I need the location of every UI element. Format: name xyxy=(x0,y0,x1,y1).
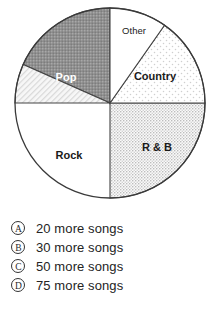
answer-option-a[interactable]: A 20 more songs xyxy=(9,219,221,238)
option-letter-circle-c: C xyxy=(9,259,30,274)
option-letter-circle-b: B xyxy=(9,240,30,255)
option-letter-a: A xyxy=(15,224,22,234)
pie-chart-figure: Other Country R & B Rock Pop xyxy=(0,0,221,205)
pie-chart-svg: Other Country R & B Rock Pop xyxy=(0,0,221,205)
pie-label-other: Other xyxy=(122,25,146,36)
option-letter-d: D xyxy=(15,281,22,291)
question-page: Other Country R & B Rock Pop A 20 more s… xyxy=(0,0,221,327)
pie-label-rock: Rock xyxy=(56,149,84,161)
pie-label-pop: Pop xyxy=(56,71,77,83)
option-letter-c: C xyxy=(15,262,21,272)
option-letter-circle-d: D xyxy=(9,278,30,293)
option-text-b: 30 more songs xyxy=(30,240,123,255)
answer-option-d[interactable]: D 75 more songs xyxy=(9,276,221,295)
pie-label-rnb: R & B xyxy=(142,141,172,153)
option-text-d: 75 more songs xyxy=(30,278,123,293)
option-text-a: 20 more songs xyxy=(30,221,123,236)
option-letter-b: B xyxy=(15,243,21,253)
answer-option-c[interactable]: C 50 more songs xyxy=(9,257,221,276)
pie-label-country: Country xyxy=(134,70,177,82)
answer-option-b[interactable]: B 30 more songs xyxy=(9,238,221,257)
pie-slices xyxy=(15,8,205,198)
option-text-c: 50 more songs xyxy=(30,259,123,274)
option-letter-circle-a: A xyxy=(9,221,30,236)
answer-options-list: A 20 more songs B 30 more songs C 50 mor… xyxy=(0,219,221,295)
